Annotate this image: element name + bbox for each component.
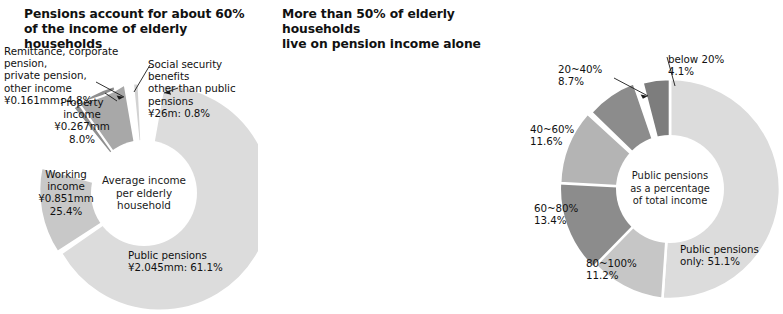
left-donut-center-label: Average income per elderly household <box>91 140 197 246</box>
label-60-80: 60~80% 13.4% <box>534 202 600 226</box>
right-chart-panel: More than 50% of elderly households live… <box>264 0 525 314</box>
label-20-40: 20~40% 8.7% <box>558 63 624 87</box>
right-donut-center-label: Public pensions as a percentage of total… <box>616 135 724 243</box>
label-below-20: below 20% 4.1% <box>668 53 748 77</box>
right-chart-title: More than 50% of elderly households live… <box>282 7 528 52</box>
label-public-pensions-only: Public pensions only: 51.1% <box>680 243 783 267</box>
label-public-pensions-amount: Public pensions ¥2.045mm: 61.1% <box>128 249 268 273</box>
label-working-income: Working income ¥0.851mm 25.4% <box>26 168 106 217</box>
left-chart-panel: Pensions account for about 60% of the in… <box>0 0 264 314</box>
label-property-income: Property income ¥0.267mm 8.0% <box>47 96 117 145</box>
label-social-security-benefits: Social security benefits other than publ… <box>148 58 266 119</box>
label-40-60: 40~60% 11.6% <box>530 123 596 147</box>
label-80-100: 80~100% 11.2% <box>586 257 666 281</box>
